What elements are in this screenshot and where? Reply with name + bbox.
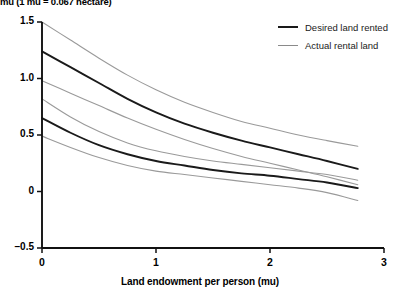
x-axis-tick-label: 3 [374,256,394,268]
chart-legend: Desired land rented Actual rental land [278,18,388,54]
chart-figure: mu (1 mu = 0.067 hectare) Desired land r… [0,0,400,299]
axis-layer [37,22,384,253]
legend-label-desired: Desired land rented [305,22,388,33]
legend-item-actual: Actual rental land [278,36,388,54]
y-axis-tick-label: 1.0 [2,72,34,83]
y-axis-tick-label: 0.5 [2,128,34,139]
x-axis-tick-label: 0 [32,256,52,268]
y-axis-tick-label: –0.5 [2,241,34,252]
legend-swatch-actual-icon [278,45,298,46]
x-axis-tick-label: 1 [146,256,166,268]
series-line [42,51,358,169]
y-axis-tick-label: 1.5 [2,15,34,26]
legend-label-actual: Actual rental land [305,40,378,51]
legend-item-desired: Desired land rented [278,18,388,36]
y-axis-tick-label: 0 [2,185,34,196]
series-line [42,81,358,185]
legend-swatch-desired-icon [278,26,298,28]
x-axis-label: Land endowment per person (mu) [0,276,400,287]
x-axis-tick-label: 2 [260,256,280,268]
